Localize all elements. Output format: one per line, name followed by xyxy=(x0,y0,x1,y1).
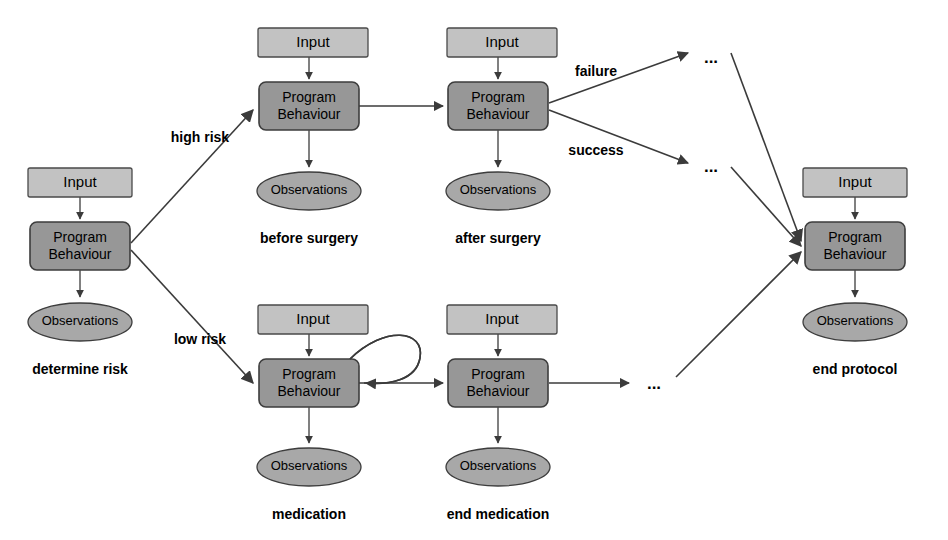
observations-label-before-surgery: Observations xyxy=(271,182,348,197)
edge-failure-continuation-to-end-protocol xyxy=(731,53,801,241)
observations-label-end-medication: Observations xyxy=(460,458,537,473)
behaviour-label-line1-after-surgery: Program xyxy=(471,89,525,105)
behaviour-label-line2-after-surgery: Behaviour xyxy=(466,106,529,122)
group-medication: Input Program Behaviour Observations med… xyxy=(257,305,368,522)
observations-label-medication: Observations xyxy=(271,458,348,473)
input-label-medication: Input xyxy=(296,310,330,327)
input-label-before-surgery: Input xyxy=(296,33,330,50)
edge-medication-self-loop-arrow xyxy=(350,335,420,383)
behaviour-label-line1-before-surgery: Program xyxy=(282,89,336,105)
input-label-end-protocol: Input xyxy=(838,173,872,190)
group-determine-risk: Input Program Behaviour Observations det… xyxy=(28,168,132,377)
input-label-determine-risk: Input xyxy=(63,173,97,190)
ellipsis-failure-continuation: ... xyxy=(704,48,718,67)
ellipsis-medication-continuation: ... xyxy=(647,374,661,393)
group-caption-determine-risk: determine risk xyxy=(32,361,128,377)
group-caption-medication: medication xyxy=(272,506,346,522)
edge-label-high-risk: high risk xyxy=(171,129,230,145)
group-caption-after-surgery: after surgery xyxy=(455,230,541,246)
behaviour-label-line2-end-medication: Behaviour xyxy=(466,383,529,399)
edge-label-failure: failure xyxy=(575,63,617,79)
observations-label-after-surgery: Observations xyxy=(460,182,537,197)
edge-low-risk xyxy=(131,250,253,383)
edge-label-low-risk: low risk xyxy=(174,331,226,347)
observations-label-end-protocol: Observations xyxy=(817,313,894,328)
group-after-surgery: Input Program Behaviour Observations aft… xyxy=(446,28,557,246)
group-caption-before-surgery: before surgery xyxy=(260,230,358,246)
input-label-end-medication: Input xyxy=(485,310,519,327)
edge-failure xyxy=(549,53,688,103)
protocol-flow-diagram: Input Program Behaviour Observations det… xyxy=(0,0,948,540)
edge-medication-self-loop xyxy=(350,335,420,383)
edge-label-success: success xyxy=(568,142,623,158)
observations-label-determine-risk: Observations xyxy=(42,313,119,328)
group-caption-end-protocol: end protocol xyxy=(813,361,898,377)
behaviour-label-line2-end-protocol: Behaviour xyxy=(823,246,886,262)
behaviour-label-line2-determine-risk: Behaviour xyxy=(48,246,111,262)
edge-success-continuation-to-end-protocol xyxy=(731,167,801,246)
edge-medication-continuation-to-end-protocol xyxy=(676,252,801,377)
behaviour-label-line1-end-medication: Program xyxy=(471,366,525,382)
group-end-medication: Input Program Behaviour Observations end… xyxy=(446,305,557,522)
diagram-canvas: Input Program Behaviour Observations det… xyxy=(0,0,948,540)
input-label-after-surgery: Input xyxy=(485,33,519,50)
group-before-surgery: Input Program Behaviour Observations bef… xyxy=(257,28,368,246)
ellipsis-success-continuation: ... xyxy=(704,157,718,176)
behaviour-label-line1-medication: Program xyxy=(282,366,336,382)
behaviour-label-line2-medication: Behaviour xyxy=(277,383,340,399)
behaviour-label-line1-end-protocol: Program xyxy=(828,229,882,245)
behaviour-label-line1-determine-risk: Program xyxy=(53,229,107,245)
group-end-protocol: Input Program Behaviour Observations end… xyxy=(803,168,907,377)
behaviour-label-line2-before-surgery: Behaviour xyxy=(277,106,340,122)
group-caption-end-medication: end medication xyxy=(447,506,550,522)
